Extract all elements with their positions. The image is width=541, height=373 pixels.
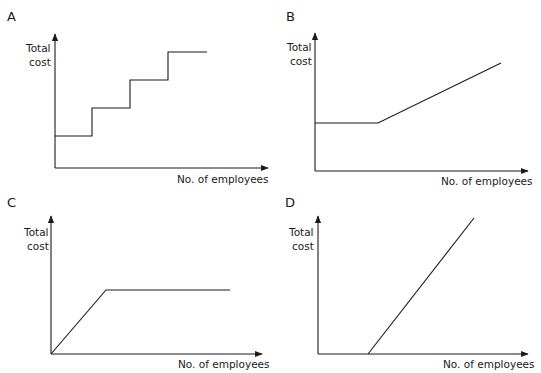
x-axis-label: No. of employees xyxy=(443,358,535,370)
y-axis-label: Total xyxy=(23,226,49,238)
y-axis-label: Total xyxy=(286,41,312,53)
step-cost-line xyxy=(55,52,207,136)
x-axis-label: No. of employees xyxy=(177,173,269,185)
y-axis-label: cost xyxy=(292,240,314,252)
x-axis-label: No. of employees xyxy=(178,358,270,370)
panel-d: D Total cost No. of employees xyxy=(285,195,535,370)
cost-line xyxy=(368,218,474,354)
panel-label: B xyxy=(286,9,295,24)
cost-graphs-diagram: A Total cost No. of employees B Total co… xyxy=(0,0,541,373)
panel-label: D xyxy=(285,195,295,210)
cost-line xyxy=(315,63,501,123)
y-axis-label: cost xyxy=(27,240,49,252)
panel-b: B Total cost No. of employees xyxy=(286,9,533,187)
x-axis-label: No. of employees xyxy=(441,175,533,187)
y-axis-label: cost xyxy=(29,56,51,68)
cost-line xyxy=(51,290,230,354)
y-axis-label: Total xyxy=(288,226,314,238)
panel-label: A xyxy=(7,9,16,24)
panel-a: A Total cost No. of employees xyxy=(7,9,269,185)
y-axis-label: cost xyxy=(290,55,312,67)
y-axis-label: Total xyxy=(25,42,51,54)
panel-c: C Total cost No. of employees xyxy=(7,195,270,370)
panel-label: C xyxy=(7,195,16,210)
